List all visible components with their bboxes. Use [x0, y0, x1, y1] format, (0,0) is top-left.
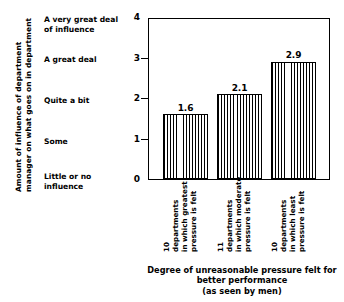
bar-least-pressure[interactable] — [271, 62, 316, 180]
x-axis-caption-line-2: better performance — [144, 275, 340, 285]
scale-label-very-great-deal-line-1: A very great deal — [44, 15, 134, 25]
scale-label-little-or-no-influence-line-2: influence — [44, 182, 134, 192]
y-axis-title-line-1: Amount of influence of department — [14, 42, 23, 192]
bar-value-label-3: 2.9 — [271, 50, 316, 60]
y-axis-title-line-2: manager on what goes on in department — [24, 18, 33, 192]
y-tick-mark-1 — [141, 139, 148, 140]
y-tick-label-2: 2 — [130, 94, 140, 103]
category-3-line-1: 10 — [270, 242, 279, 252]
y-tick-mark-3 — [141, 58, 148, 59]
category-3-line-2: departments — [279, 200, 288, 252]
y-axis-title: Amount of influence of department manage… — [0, 0, 40, 200]
x-axis-caption: Degree of unreasonable pressure felt for… — [144, 265, 340, 296]
x-axis-category-labels: 10 departments in which greatest pressur… — [148, 182, 330, 254]
scale-label-little-or-no-influence: Little or no influence — [44, 172, 134, 191]
category-2-line-1: 11 — [216, 242, 225, 252]
category-1-line-4: pressure is felt — [189, 191, 198, 252]
y-tick-label-1: 1 — [130, 135, 140, 144]
plot-area: 1.6 2.1 2.9 — [148, 18, 330, 180]
category-2-line-3: in which moderate — [234, 177, 243, 252]
bar-series: 1.6 2.1 2.9 — [149, 19, 329, 179]
scale-label-very-great-deal-line-2: of influence — [44, 25, 134, 35]
category-1-line-3: in which greatest — [180, 181, 189, 252]
scale-label-quite-a-bit: Quite a bit — [44, 96, 134, 106]
category-label-least-pressure: 10 departments in which least pressure i… — [268, 182, 340, 242]
y-tick-label-0: 0 — [130, 175, 140, 184]
category-1-line-1: 10 — [162, 242, 171, 252]
y-tick-mark-2 — [141, 98, 148, 99]
bar-greatest-pressure[interactable] — [163, 114, 208, 179]
category-2-line-4: pressure is felt — [243, 191, 252, 252]
scale-label-very-great-deal: A very great deal of influence — [44, 15, 134, 34]
y-axis-scale-labels: A very great deal of influence A great d… — [44, 0, 132, 200]
category-1-line-2: departments — [171, 200, 180, 252]
scale-label-great-deal: A great deal — [44, 55, 134, 65]
category-2-line-2: departments — [225, 200, 234, 252]
y-tick-label-4: 4 — [130, 13, 140, 22]
category-3-line-4: pressure is felt — [297, 191, 306, 252]
scale-label-little-or-no-influence-line-1: Little or no — [44, 172, 134, 182]
category-3-line-3: in which least — [288, 196, 297, 252]
x-axis-caption-line-1: Degree of unreasonable pressure felt for — [144, 265, 340, 275]
scale-label-some: Some — [44, 137, 134, 147]
bar-value-label-2: 2.1 — [217, 83, 262, 93]
y-tick-label-3: 3 — [130, 54, 140, 63]
x-axis-caption-line-3: (as seen by men) — [144, 286, 340, 296]
bar-value-label-1: 1.6 — [163, 103, 208, 113]
bar-moderate-pressure[interactable] — [217, 94, 262, 179]
